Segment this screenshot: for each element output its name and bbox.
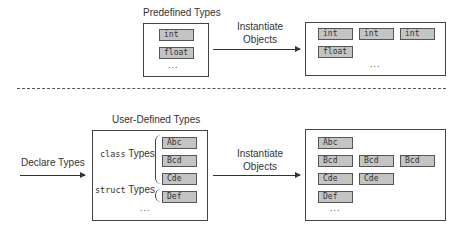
types-text: Types <box>126 148 155 159</box>
ellipsis: ... <box>140 203 151 213</box>
type-chip-bcd: Bcd <box>162 155 197 167</box>
object-chip: Cde <box>359 173 394 185</box>
ellipsis: ... <box>370 59 381 69</box>
object-chip: float <box>318 46 353 58</box>
instantiate-arrow-top <box>213 49 300 50</box>
user-defined-types-box: class Types struct Types Abc Bcd Cde Def… <box>92 130 208 221</box>
class-types-label: class Types <box>100 148 155 159</box>
object-chip: Bcd <box>318 155 353 167</box>
object-chip: Abc <box>318 137 353 149</box>
instantiate-text: Instantiate <box>225 147 295 160</box>
object-chip: Def <box>318 191 353 203</box>
user-defined-types-title: User-Defined Types <box>112 114 200 125</box>
instantiate-label-top: Instantiate Objects <box>225 20 295 46</box>
class-brace <box>155 135 161 184</box>
type-chip-def: Def <box>162 191 197 203</box>
struct-keyword: struct <box>95 185 126 195</box>
object-chip: int <box>400 28 435 40</box>
objects-text: Objects <box>225 160 295 173</box>
object-chip: Bcd <box>400 155 435 167</box>
ellipsis: ... <box>168 60 179 70</box>
instantiate-text: Instantiate <box>225 20 295 33</box>
type-chip-float: float <box>159 47 194 59</box>
section-divider <box>17 88 446 89</box>
object-chip: Bcd <box>359 155 394 167</box>
objects-box-bottom: Abc Bcd Bcd Bcd Cde Cde Def ... <box>305 129 446 221</box>
declare-types-label: Declare Types <box>21 157 85 168</box>
type-chip-abc: Abc <box>162 137 197 149</box>
ellipsis: ... <box>330 203 341 213</box>
objects-text: Objects <box>225 33 295 46</box>
type-chip-int: int <box>159 29 194 41</box>
object-chip: Cde <box>318 173 353 185</box>
class-keyword: class <box>100 149 126 159</box>
objects-box-top: int int int float ... <box>305 22 446 76</box>
type-chip-cde: Cde <box>162 173 197 185</box>
predefined-types-box: int float ... <box>143 23 209 77</box>
object-chip: int <box>318 28 353 40</box>
struct-types-label: struct Types <box>95 184 155 195</box>
instantiate-arrow-bottom <box>213 175 300 176</box>
predefined-types-title: Predefined Types <box>143 7 211 18</box>
object-chip: int <box>359 28 394 40</box>
struct-brace <box>155 189 161 202</box>
instantiate-label-bottom: Instantiate Objects <box>225 147 295 173</box>
declare-arrow <box>20 175 85 176</box>
types-text: Types <box>126 184 155 195</box>
